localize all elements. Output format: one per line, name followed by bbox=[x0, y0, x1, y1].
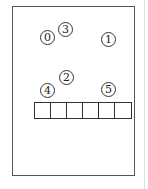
circle-node-5: 5 bbox=[101, 82, 116, 97]
node-label: 0 bbox=[44, 32, 51, 43]
cell bbox=[115, 103, 131, 118]
node-label: 3 bbox=[62, 24, 69, 35]
node-label: 2 bbox=[63, 72, 70, 83]
page-edge bbox=[144, 0, 148, 189]
cell bbox=[67, 103, 83, 118]
node-label: 1 bbox=[105, 34, 112, 45]
circle-node-0: 0 bbox=[40, 30, 55, 45]
circle-node-4: 4 bbox=[40, 83, 55, 98]
cell-row bbox=[34, 102, 132, 119]
node-label: 5 bbox=[105, 84, 112, 95]
cell bbox=[51, 103, 67, 118]
circle-node-1: 1 bbox=[101, 32, 116, 47]
diagram-frame bbox=[12, 6, 135, 176]
circle-node-2: 2 bbox=[59, 70, 74, 85]
circle-node-3: 3 bbox=[58, 22, 73, 37]
node-label: 4 bbox=[44, 85, 51, 96]
cell bbox=[83, 103, 99, 118]
cell bbox=[35, 103, 51, 118]
cell bbox=[99, 103, 115, 118]
